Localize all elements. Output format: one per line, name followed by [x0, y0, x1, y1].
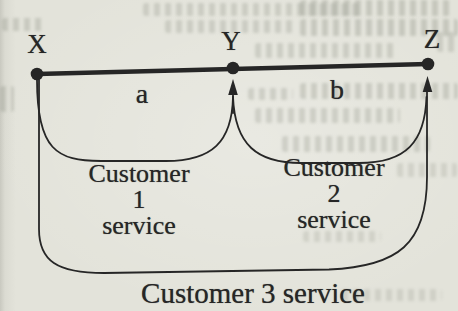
point-label-z: Z — [417, 24, 447, 55]
point-label-y: Y — [216, 26, 246, 57]
label-line: Customer — [259, 155, 409, 181]
customer-3-service-label: Customer 3 service — [123, 277, 383, 310]
customer-1-service-label: Customer 1 service — [64, 161, 214, 239]
customer-2-service-label: Customer 2 service — [259, 155, 409, 233]
label-line: 1 — [64, 187, 214, 213]
arrowhead-up-icon — [423, 76, 433, 92]
label-line: service — [259, 207, 409, 233]
segment-label-b: b — [322, 74, 352, 106]
segment-label-a: a — [127, 78, 157, 110]
point-label-x: X — [22, 29, 52, 60]
label-line: 2 — [259, 181, 409, 207]
label-line: service — [64, 213, 214, 239]
point-dot-z — [422, 58, 435, 71]
scanned-diagram-page: X Y Z a b Customer 1 service Customer 2 … — [0, 0, 458, 311]
point-dot-y — [227, 62, 240, 75]
arrowhead-up-icon — [228, 79, 238, 95]
label-line: Customer — [64, 161, 214, 187]
point-dot-x — [31, 68, 44, 81]
